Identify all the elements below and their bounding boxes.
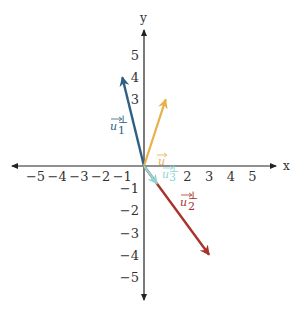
y-tick-label: −4 xyxy=(120,248,139,263)
y-tick-label: −2 xyxy=(120,203,139,218)
label-u1-perp: u 1 ⊥ xyxy=(110,113,128,137)
x-tick-label: −2 xyxy=(91,169,110,184)
y-tick-label: −1 xyxy=(120,181,139,196)
x-tick-label: −3 xyxy=(69,169,88,184)
y-tick-label: 3 xyxy=(131,92,139,107)
label-u2-perp: u 2 ⊥ xyxy=(180,189,198,213)
label-u1-sup: ⊥ xyxy=(118,113,128,126)
y-tick-label: −3 xyxy=(120,226,139,241)
label-u-text: u xyxy=(158,155,165,168)
y-axis-label: y xyxy=(139,11,147,25)
x-tick-labels: −5−4−3−2−12345 xyxy=(26,169,257,184)
x-tick-label: −5 xyxy=(26,169,45,184)
x-axis-label: x xyxy=(283,159,290,173)
vector-u3-perp xyxy=(144,166,157,184)
label-u1-text: u xyxy=(110,120,117,133)
x-tick-label: 4 xyxy=(227,169,235,184)
x-tick-label: 5 xyxy=(248,169,256,184)
x-tick-label: 3 xyxy=(205,169,213,184)
y-tick-label: 4 xyxy=(131,70,139,85)
y-tick-label: 5 xyxy=(131,48,139,63)
x-tick-label: −4 xyxy=(48,169,67,184)
vector-diagram: x y −5−4−3−2−12345 543−1−2−3−4−5 u 1 ⊥ u… xyxy=(0,0,299,310)
label-u3-sup: ⊥ xyxy=(169,162,179,175)
y-tick-label: −5 xyxy=(120,270,139,285)
label-u2-text: u xyxy=(180,196,187,209)
label-u2-sup: ⊥ xyxy=(188,189,198,202)
x-tick-label: 2 xyxy=(183,169,191,184)
